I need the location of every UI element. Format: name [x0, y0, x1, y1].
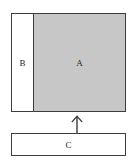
region-b: B: [12, 14, 33, 111]
region-a-label: A: [34, 58, 125, 67]
diagram-canvas: B A C: [0, 0, 136, 163]
region-a: A: [33, 14, 125, 111]
region-b-label: B: [12, 58, 33, 67]
c-box-label: C: [12, 140, 125, 149]
arrow-up-icon: [69, 114, 85, 133]
main-box: B A: [11, 13, 126, 112]
c-box: C: [11, 133, 126, 156]
